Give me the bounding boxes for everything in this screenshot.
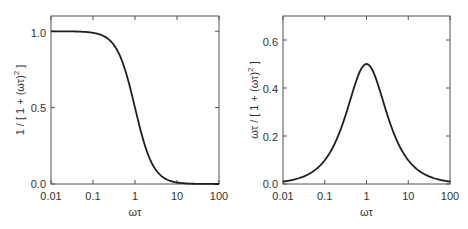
x-tick-label: 0.1	[317, 190, 332, 202]
x-tick-label: 0.1	[85, 190, 100, 202]
x-tick-label: 10	[171, 190, 183, 202]
left-x-tick-labels: 0.01 0.1 1 10 100	[40, 190, 228, 202]
y-tick-label: 1.0	[31, 27, 46, 39]
right-plot-ticks	[283, 16, 450, 184]
x-tick-label: 1	[363, 190, 369, 202]
left-plot-curve	[51, 31, 219, 184]
left-plot: 0.01 0.1 1 10 100 0.0 0.5 1.0 ωτ 1 / [ 1…	[12, 16, 228, 218]
left-y-axis-label: 1 / [ 1 + (ωτ)2 ]	[12, 65, 26, 136]
x-tick-label: 10	[402, 190, 414, 202]
x-tick-label: 100	[210, 190, 228, 202]
y-tick-label: 0.5	[31, 102, 46, 114]
right-plot-curve	[283, 64, 450, 182]
left-plot-frame	[51, 16, 219, 184]
y-tick-label: 0.0	[263, 178, 278, 190]
y-tick-label: 0.0	[31, 178, 46, 190]
y-tick-label: 0.6	[263, 36, 278, 48]
figure: 0.01 0.1 1 10 100 0.0 0.5 1.0 ωτ 1 / [ 1…	[0, 0, 468, 229]
right-y-tick-labels: 0.0 0.2 0.4 0.6	[263, 36, 278, 190]
right-x-tick-labels: 0.01 0.1 1 10 100	[272, 190, 459, 202]
left-x-axis-label: ωτ	[129, 206, 142, 218]
y-tick-label: 0.4	[263, 83, 278, 95]
left-y-tick-labels: 0.0 0.5 1.0	[31, 27, 46, 190]
x-tick-label: 0.01	[272, 190, 293, 202]
y-label-text: 1 / [ 1 + (ωτ)	[14, 75, 26, 135]
left-plot-ticks	[51, 16, 219, 184]
right-x-axis-label: ωτ	[360, 206, 373, 218]
y-label-tail: ]	[248, 61, 260, 67]
y-label-text: ωτ / [ 1 + (ωτ)	[248, 72, 260, 139]
y-tick-label: 0.2	[263, 131, 278, 143]
x-tick-label: 0.01	[40, 190, 61, 202]
x-tick-label: 1	[132, 190, 138, 202]
x-tick-label: 100	[441, 190, 459, 202]
y-label-tail: ]	[14, 65, 26, 71]
right-plot-frame	[283, 16, 450, 184]
right-plot: 0.01 0.1 1 10 100 0.0 0.2 0.4 0.6 ωτ ωτ …	[246, 16, 459, 218]
right-y-axis-label: ωτ / [ 1 + (ωτ)2 ]	[246, 61, 260, 138]
